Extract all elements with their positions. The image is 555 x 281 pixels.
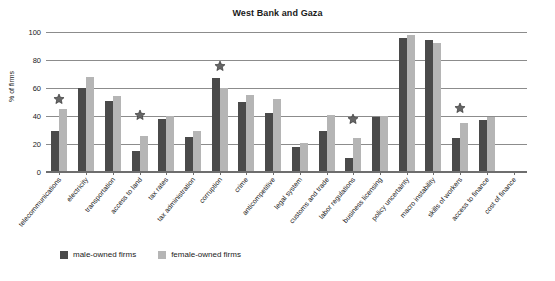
bar-group bbox=[99, 32, 126, 172]
legend-item-female[interactable]: female-owned firms bbox=[158, 250, 241, 259]
bar-female bbox=[433, 43, 441, 172]
chart-legend: male-owned firmsfemale-owned firms bbox=[60, 250, 241, 259]
bar-group bbox=[233, 32, 260, 172]
x-axis-category-text: telecommunications bbox=[18, 176, 63, 228]
bar-female bbox=[220, 88, 228, 172]
y-axis-tick: 100 bbox=[28, 28, 41, 37]
legend-swatch-male bbox=[60, 251, 68, 259]
bar-male bbox=[238, 102, 246, 172]
x-label-cell: access to land bbox=[126, 174, 153, 244]
chart-title: West Bank and Gaza bbox=[0, 8, 555, 18]
y-axis-tick: 60 bbox=[33, 84, 41, 93]
y-axis-tick: 40 bbox=[33, 112, 41, 121]
bar-female bbox=[86, 77, 94, 172]
bar-male bbox=[185, 137, 193, 172]
bar-male bbox=[105, 101, 113, 172]
x-label-cell: corruption bbox=[206, 174, 233, 244]
y-axis-tick: 80 bbox=[33, 56, 41, 65]
y-axis-tick: 20 bbox=[33, 140, 41, 149]
legend-label-female: female-owned firms bbox=[171, 250, 241, 259]
significance-star-icon bbox=[134, 109, 145, 120]
significance-star-icon bbox=[214, 60, 225, 71]
bar-female bbox=[59, 109, 67, 172]
bar-female bbox=[327, 115, 335, 172]
x-label-cell: tax administration bbox=[180, 174, 207, 244]
legend-item-male[interactable]: male-owned firms bbox=[60, 250, 136, 259]
x-axis-category-text: crime bbox=[233, 176, 249, 194]
significance-star-icon bbox=[455, 102, 466, 113]
significance-star-icon bbox=[348, 113, 359, 124]
bar-male bbox=[51, 131, 59, 172]
bar-group bbox=[46, 32, 73, 172]
x-label-cell: cost of finance bbox=[500, 174, 527, 244]
chart-container: West Bank and Gaza % of firms 0204060801… bbox=[0, 0, 555, 281]
x-axis-labels: telecommunicationselectricitytransportat… bbox=[46, 174, 527, 244]
bar-female bbox=[407, 35, 415, 172]
significance-star-icon bbox=[54, 94, 65, 105]
bar-male bbox=[265, 113, 273, 172]
legend-swatch-female bbox=[158, 251, 166, 259]
bar-group bbox=[180, 32, 207, 172]
bar-group bbox=[260, 32, 287, 172]
y-axis-label: % of firms bbox=[8, 71, 15, 102]
legend-label-male: male-owned firms bbox=[73, 250, 136, 259]
bar-female bbox=[246, 95, 254, 172]
x-label-cell: anticompetitive bbox=[260, 174, 287, 244]
y-axis-tick: 0 bbox=[37, 168, 41, 177]
bar-female bbox=[113, 96, 121, 172]
bar-female bbox=[273, 99, 281, 172]
x-label-cell: telecommunications bbox=[46, 174, 73, 244]
